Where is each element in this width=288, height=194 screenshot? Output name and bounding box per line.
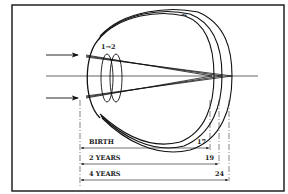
dimension-birth-value: 17: [197, 138, 206, 146]
globe-4-years: [100, 10, 232, 152]
dimension-4-years-label: 4 YEARS: [89, 170, 121, 178]
cornea: [87, 38, 100, 118]
eye-growth-diagram: 1→2 → BIRTH 17 2 YEARS 19 4 YEARS 24: [0, 0, 288, 194]
dimension-2-years: 2 YEARS 19: [81, 154, 218, 164]
refracted-rays: [86, 55, 232, 98]
growth-mark: →: [180, 10, 188, 20]
dimension-2-years-value: 19: [205, 154, 215, 162]
dimension-4-years: 4 YEARS 24: [81, 170, 228, 180]
dimension-2-years-label: 2 YEARS: [89, 154, 121, 162]
lens-label: 1→2: [101, 43, 116, 51]
dimension-4-years-value: 24: [215, 170, 225, 178]
dimension-birth-label: BIRTH: [89, 138, 114, 146]
